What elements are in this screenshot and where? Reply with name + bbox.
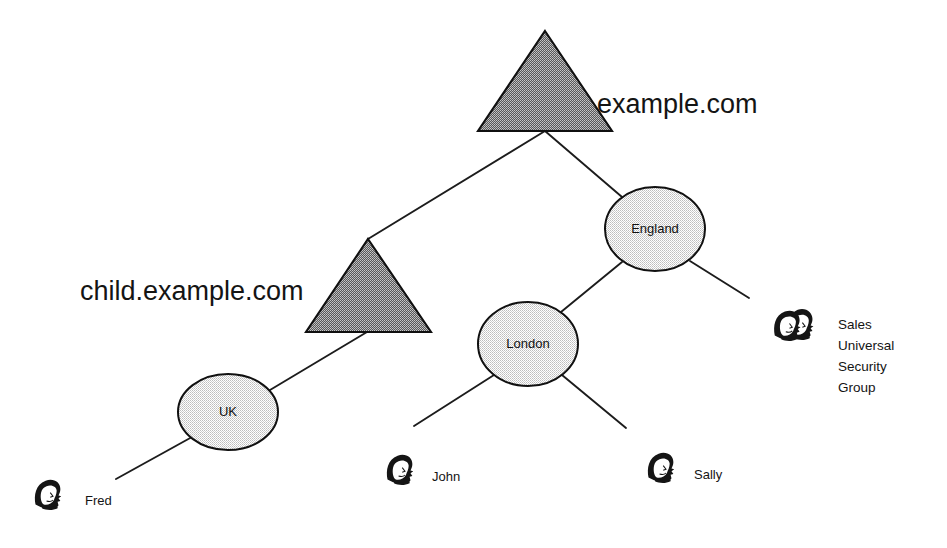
domain-label-example-com: example.com bbox=[597, 89, 758, 119]
site-label-uk: UK bbox=[219, 404, 237, 419]
edge-example-to-child bbox=[368, 131, 545, 239]
domain-example-com[interactable] bbox=[478, 31, 612, 131]
user-icon[interactable] bbox=[387, 455, 413, 485]
diagram-svg: example.com child.example.com England Lo… bbox=[0, 0, 947, 548]
person-label-sally: Sally bbox=[694, 467, 723, 482]
site-node-uk[interactable]: UK bbox=[178, 374, 278, 450]
edge-england-to-sales-group bbox=[690, 261, 749, 298]
site-node-london[interactable]: London bbox=[478, 302, 578, 386]
user-icon[interactable] bbox=[35, 480, 61, 510]
group-label-sales-line-2: Universal bbox=[838, 338, 894, 353]
group-label-sales-line-3: Security bbox=[838, 359, 887, 374]
edge-london-to-john bbox=[414, 375, 494, 426]
edge-uk-to-fred bbox=[116, 437, 192, 479]
edge-london-to-sally bbox=[562, 375, 626, 428]
edge-example-to-england bbox=[545, 131, 622, 197]
domain-child-example-com[interactable] bbox=[306, 239, 431, 332]
group-label-sales-line-1: Sales bbox=[838, 317, 872, 332]
diagram-canvas: example.com child.example.com England Lo… bbox=[0, 0, 947, 548]
person-label-fred: Fred bbox=[85, 493, 112, 508]
group-label-sales-line-4: Group bbox=[838, 380, 876, 395]
edge-child-to-uk bbox=[270, 332, 367, 390]
site-label-england: England bbox=[631, 221, 679, 236]
site-node-england[interactable]: England bbox=[605, 187, 705, 271]
domain-triangle-example-com[interactable] bbox=[478, 31, 612, 131]
site-label-london: London bbox=[506, 336, 549, 351]
edge-england-to-london bbox=[561, 262, 622, 312]
domain-triangle-child-example-com[interactable] bbox=[306, 239, 431, 332]
user-icon[interactable] bbox=[648, 453, 674, 483]
domain-label-child-example-com: child.example.com bbox=[80, 276, 304, 306]
group-icon[interactable] bbox=[774, 309, 813, 341]
person-label-john: John bbox=[432, 469, 460, 484]
